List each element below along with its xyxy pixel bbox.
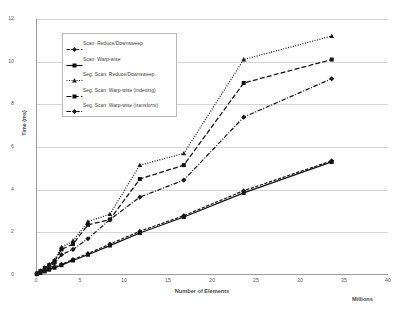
legend-item: Scan: Warp-wise (66, 53, 174, 69)
x-tick-label: 25 (244, 278, 268, 283)
legend-key-square-icon (66, 87, 83, 96)
gridline (37, 232, 388, 233)
x-tick-label: 5 (68, 278, 92, 283)
x-tick-label: 0 (24, 278, 48, 283)
gridline (37, 190, 388, 191)
x-axis-title: Number of Elements (142, 288, 262, 294)
legend-key-triangle-icon (66, 71, 83, 80)
y-axis-title: Time (ms) (21, 93, 27, 153)
y-tick-label: 10 (0, 59, 14, 64)
line-chart: 12 10 8 6 4 2 0 0 5 10 15 20 25 30 35 40… (0, 0, 405, 311)
x-tick-label: 10 (112, 278, 136, 283)
legend-item: Scan: Reduce/Downsweep (66, 37, 174, 53)
legend: Scan: Reduce/Downsweep Scan: Warp-wise S… (62, 33, 177, 117)
x-tick-label: 35 (332, 278, 356, 283)
y-tick-label: 4 (0, 187, 14, 192)
x-tick-label: 30 (288, 278, 312, 283)
legend-label: Seg. Scan: Warp-wise (transform) (83, 104, 158, 109)
legend-item: Seg. Scan: Reduce/Downsweep (66, 68, 174, 84)
x-tick-label: 40 (376, 278, 400, 283)
legend-key-square-icon (66, 56, 83, 65)
y-tick-label: 0 (0, 272, 14, 277)
legend-label: Seg. Scan: Warp-wise (indexing) (83, 89, 156, 94)
legend-key-diamond-icon (66, 40, 83, 49)
legend-item: Seg. Scan: Warp-wise (transform) (66, 99, 174, 115)
legend-key-plus-diamond-icon (66, 102, 83, 111)
y-tick-label: 12 (0, 16, 14, 21)
x-tick-label: 15 (156, 278, 180, 283)
y-tick-label: 8 (0, 101, 14, 106)
legend-label: Scan: Reduce/Downsweep (83, 42, 143, 47)
y-tick-label: 2 (0, 229, 14, 234)
x-tick-label: 20 (200, 278, 224, 283)
x-axis-unit-label: Millions (352, 296, 402, 302)
gridline (37, 19, 388, 20)
gridline (37, 147, 388, 148)
legend-item: Seg. Scan: Warp-wise (indexing) (66, 84, 174, 100)
legend-label: Seg. Scan: Reduce/Downsweep (83, 73, 155, 78)
y-tick-label: 6 (0, 144, 14, 149)
legend-label: Scan: Warp-wise (83, 58, 121, 63)
